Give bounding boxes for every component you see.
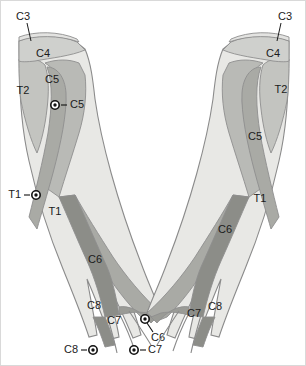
label-right-c5: C5	[248, 130, 262, 142]
dermatome-diagram: C3 C4 C5 T2 T1 C6 C8 C7 C5 T1	[1, 1, 306, 366]
label-left-c6: C6	[88, 253, 102, 265]
label-left-c5: C5	[45, 73, 59, 85]
label-right-c6: C6	[218, 223, 232, 235]
left-arm-group: C3 C4 C5 T2 T1 C6 C8 C7 C5 T1	[8, 10, 165, 355]
marker-left-t1-label: T1	[8, 188, 21, 200]
label-left-c3: C3	[16, 10, 30, 22]
marker-left-c7-label: C7	[148, 343, 162, 355]
label-left-c7: C7	[107, 314, 121, 326]
label-left-t2: T2	[17, 84, 30, 96]
label-left-c4: C4	[36, 47, 50, 59]
marker-left-c6-label: C6	[151, 331, 165, 343]
marker-left-c5-label: C5	[70, 98, 84, 110]
label-right-c3: C3	[278, 10, 292, 22]
right-arm-group: C3 C4 T2 C5 T1 C6 C7 C8	[147, 10, 292, 353]
label-left-t1: T1	[49, 205, 62, 217]
label-right-t2: T2	[275, 83, 288, 95]
marker-left-c8-label: C8	[64, 343, 78, 355]
label-right-t1: T1	[254, 192, 267, 204]
marker-left-c8[interactable]: C8	[64, 343, 97, 355]
label-right-c8: C8	[208, 300, 222, 312]
dermatome-figure: C3 C4 C5 T2 T1 C6 C8 C7 C5 T1	[0, 0, 306, 366]
label-right-c7: C7	[187, 307, 201, 319]
label-left-c8: C8	[87, 299, 101, 311]
label-right-c4: C4	[266, 47, 280, 59]
